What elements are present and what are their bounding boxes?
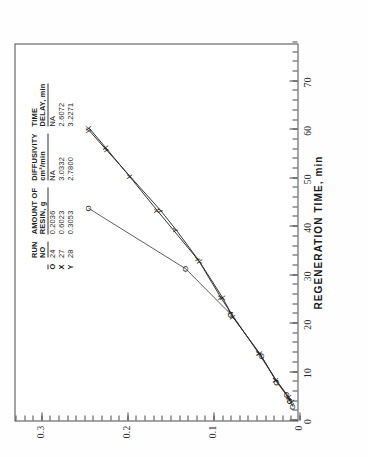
data-marker-y: Y <box>216 294 225 300</box>
x-tick-label: 20 <box>302 319 312 329</box>
data-marker-y: Y <box>155 207 164 213</box>
data-marker-y: Y <box>225 309 234 315</box>
legend-cell-amount: 0.6023 <box>57 180 66 234</box>
curve-o <box>88 208 293 407</box>
x-tick-minor <box>292 41 297 42</box>
data-marker-y: Y <box>284 396 293 402</box>
curve-x <box>89 128 291 402</box>
x-tick-label: 0 <box>302 418 312 423</box>
y-tick-major <box>299 412 300 420</box>
legend-header-symbol <box>30 257 48 269</box>
data-marker-y: Y <box>171 226 180 232</box>
legend-header-diffusivity: DIFFUSIVITY cm²/min <box>30 126 48 180</box>
data-marker-y: Y <box>192 255 201 261</box>
legend-cell-symbol: Y <box>66 257 75 269</box>
data-marker-y: Y <box>101 146 110 152</box>
x-tick-label: 60 <box>302 125 312 135</box>
legend-cell-timedelay: 3.2271 <box>66 76 75 126</box>
legend-header-run: RUN NO <box>30 234 48 258</box>
legend-cell-run: 28 <box>66 234 75 258</box>
x-tick-label: 30 <box>302 271 312 281</box>
x-tick-label: 40 <box>302 222 312 232</box>
y-tick-label: 0.3 <box>35 425 45 438</box>
legend-cell-amount: 0.3053 <box>66 180 75 234</box>
y-tick-label: 0.2 <box>121 425 131 438</box>
data-marker-o: O <box>180 265 189 271</box>
legend-row: X270.60233.03322.6072 <box>57 76 66 269</box>
legend-header-amount: AMOUNT OF RESIN, g <box>30 180 48 234</box>
y-tick-label: 0.1 <box>207 425 217 438</box>
y-tick-label: 0 <box>293 425 303 430</box>
legend-cell-diffusivity: 2.7800 <box>66 126 75 180</box>
figure-canvas: OOOOOOOOXXXXXXXXXXXYYYYYYYYYY 0102030405… <box>0 0 368 457</box>
rotated-figure: OOOOOOOOXXXXXXXXXXXYYYYYYYYYY 0102030405… <box>0 0 368 457</box>
data-marker-y: Y <box>84 127 93 133</box>
x-axis-title: REGENERATION TIME, min <box>312 43 323 421</box>
legend-cell-diffusivity: 3.0332 <box>57 126 66 180</box>
legend-header-row: RUN NO AMOUNT OF RESIN, g DIFFUSIVITY cm… <box>30 76 48 269</box>
legend-row: Y280.30532.78003.2271 <box>66 76 75 269</box>
legend-cell-timedelay: 2.6072 <box>57 76 66 126</box>
x-tick-label: 70 <box>302 77 312 87</box>
legend-table: RUN NO AMOUNT OF RESIN, g DIFFUSIVITY cm… <box>30 76 75 269</box>
data-marker-o: O <box>83 205 92 211</box>
data-marker-y: Y <box>254 350 263 356</box>
x-tick-label: 10 <box>302 367 312 377</box>
legend-cell-run: 27 <box>57 234 66 258</box>
x-tick-label: 50 <box>302 174 312 184</box>
legend-header-timedelay: TIME DELAY, min <box>30 76 48 126</box>
legend-cell-symbol: X <box>57 257 66 269</box>
data-marker-y: Y <box>271 376 280 382</box>
